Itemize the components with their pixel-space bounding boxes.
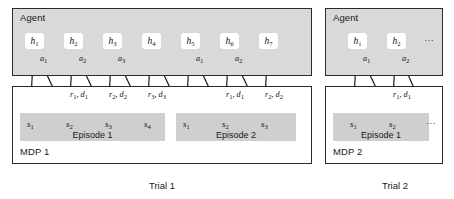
state-index: 2 (226, 123, 229, 130)
state-truncation-ellipsis: ⋯ (426, 118, 437, 129)
state-node: s2 (61, 116, 78, 132)
agent-box-label-trial-2: Agent (333, 12, 358, 23)
action-label: a1 (363, 54, 370, 63)
action-label: a2 (402, 54, 409, 63)
reward-done-label: r2, d2 (265, 90, 283, 99)
reward-done-label: r1, d1 (226, 90, 244, 99)
reward-done-label: r2, d2 (109, 90, 127, 99)
hidden-state-node: h4 (142, 33, 161, 49)
mdp-box-label-trial-1: MDP 1 (20, 146, 49, 157)
hidden-state-node: h1 (348, 33, 367, 49)
diagram-canvas: Agent MDP 1 Episode 1 Episode 2 h1 h2 h3… (0, 0, 454, 199)
action-label: a2 (79, 54, 86, 63)
action-label: a1 (40, 54, 47, 63)
reward-done-label: r1, d1 (393, 90, 411, 99)
state-node: s1 (345, 116, 362, 132)
state-node: s1 (178, 116, 195, 132)
hidden-state-node: h2 (64, 33, 83, 49)
hidden-state-node: h1 (25, 33, 44, 49)
action-label: a3 (118, 54, 125, 63)
state-node: s3 (100, 116, 117, 132)
hidden-state-node: h3 (103, 33, 122, 49)
hidden-state-index: 2 (397, 40, 400, 47)
state-index: 3 (109, 123, 112, 130)
trial-label-2: Trial 2 (355, 180, 435, 191)
agent-box-label-trial-1: Agent (20, 12, 45, 23)
state-index: 1 (354, 123, 357, 130)
hidden-state-index: 4 (152, 40, 155, 47)
state-node: s1 (22, 116, 39, 132)
hidden-state-index: 7 (269, 40, 272, 47)
state-node: s2 (217, 116, 234, 132)
hidden-state-index: 3 (113, 40, 116, 47)
mdp-box-label-trial-2: MDP 2 (333, 146, 362, 157)
state-index: 2 (393, 123, 396, 130)
reward-done-label: r3, d3 (148, 90, 166, 99)
hidden-state-index: 1 (35, 40, 38, 47)
reward-done-label: r1, d1 (70, 90, 88, 99)
hidden-state-index: 2 (74, 40, 77, 47)
action-label: a1 (196, 54, 203, 63)
state-node: s2 (384, 116, 401, 132)
state-index: 4 (148, 123, 151, 130)
hidden-state-truncation-ellipsis: ⋯ (424, 35, 435, 46)
hidden-state-node: h6 (220, 33, 239, 49)
hidden-state-index: 1 (358, 40, 361, 47)
hidden-state-node: h5 (181, 33, 200, 49)
hidden-state-node: h7 (259, 33, 278, 49)
action-label: a2 (235, 54, 242, 63)
state-index: 3 (265, 123, 268, 130)
state-index: 1 (31, 123, 34, 130)
hidden-state-node: h2 (387, 33, 406, 49)
state-node: s3 (256, 116, 273, 132)
hidden-state-index: 6 (230, 40, 233, 47)
trial-label-1: Trial 1 (122, 180, 202, 191)
state-index: 2 (70, 123, 73, 130)
state-index: 1 (187, 123, 190, 130)
state-node: s4 (139, 116, 156, 132)
hidden-state-index: 5 (191, 40, 194, 47)
